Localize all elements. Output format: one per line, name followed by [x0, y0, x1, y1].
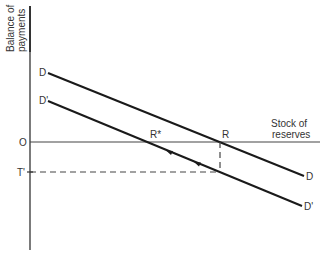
bop-reserves-diagram: Balance of payments Stock of reserves O … [0, 0, 323, 259]
x-axis-label-line1: Stock of [271, 118, 307, 129]
origin-label: O [19, 137, 27, 148]
curve-d-prime-start-label: D' [39, 95, 48, 106]
curve-d-end-label: D [306, 171, 313, 182]
y-axis-label-line1: Balance of [5, 5, 16, 52]
curve-d-prime [48, 101, 302, 206]
arrow-icon [166, 151, 173, 156]
x-axis-label-line2: reserves [272, 129, 310, 140]
curve-d-start-label: D [39, 67, 46, 78]
r-star-label: R* [150, 129, 161, 140]
curve-d-prime-end-label: D' [304, 201, 313, 212]
arrow-icon [194, 162, 201, 167]
t-prime-label: T' [17, 167, 25, 178]
r-label: R [222, 129, 229, 140]
y-axis-label-line2: payments [16, 9, 27, 52]
curve-d [48, 73, 304, 176]
